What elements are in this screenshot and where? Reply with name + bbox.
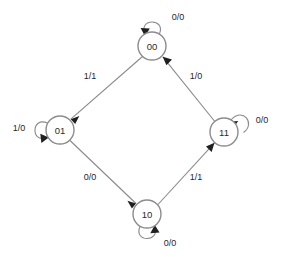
transition-10-to-11-line [158, 143, 215, 205]
self-loop-10-label: 0/0 [164, 238, 177, 248]
state-node-00-label: 00 [147, 41, 158, 52]
transition-11-to-00-arrowhead [163, 57, 172, 65]
self-loop-01-label: 1/0 [13, 123, 26, 133]
self-loop-01: 1/0 [13, 122, 49, 143]
state-node-11[interactable]: 11 [210, 118, 238, 146]
state-node-01[interactable]: 01 [46, 116, 74, 144]
self-loop-00-label: 0/0 [172, 12, 185, 22]
transition-01-to-10-label: 0/0 [84, 172, 97, 182]
self-loop-11-label: 0/0 [256, 115, 269, 125]
transition-10-to-11-label: 1/1 [190, 172, 203, 182]
transition-00-to-01-line [71, 57, 143, 120]
transition-01-to-10-line [70, 141, 136, 204]
transition-00-to-01-label: 1/1 [84, 71, 97, 81]
transition-10-to-11: 1/1 [158, 143, 215, 205]
state-node-01-label: 01 [55, 125, 66, 136]
state-node-11-label: 11 [219, 127, 229, 138]
state-node-10[interactable]: 10 [133, 200, 161, 228]
transition-00-to-01: 1/1 [71, 57, 143, 125]
transition-11-to-00-line [163, 57, 215, 122]
transition-11-to-00-label: 1/0 [190, 71, 203, 81]
state-node-00[interactable]: 00 [138, 32, 166, 60]
transition-01-to-10: 0/0 [70, 141, 136, 209]
state-node-10-label: 10 [142, 209, 153, 220]
transition-11-to-00: 1/0 [163, 57, 215, 122]
diagram-canvas: 1/1 0/0 1/1 1/0 0/0 [0, 0, 290, 257]
state-machine-diagram: 1/1 0/0 1/1 1/0 0/0 [0, 0, 290, 257]
